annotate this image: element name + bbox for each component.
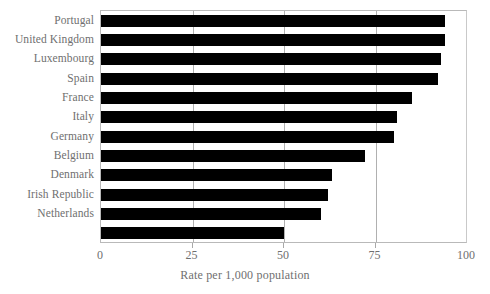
- bar-spain: [101, 73, 438, 85]
- tick-label-25: 25: [186, 248, 198, 263]
- tick-label-100: 100: [457, 248, 475, 263]
- bar-germany: [101, 131, 394, 143]
- chart-screenshot: PortugalUnited KingdomLuxembourgSpainFra…: [0, 0, 490, 294]
- bar-italy: [101, 111, 397, 123]
- bar-irish-republic: [101, 189, 328, 201]
- tick-label-50: 50: [277, 248, 289, 263]
- bar-row: [101, 227, 467, 239]
- bar-united-kingdom: [101, 34, 445, 46]
- bar-row: [101, 73, 467, 85]
- y-label-united-kingdom: United Kingdom: [15, 33, 94, 45]
- y-label-irish-republic: Irish Republic: [27, 188, 94, 200]
- bar-row: [101, 15, 467, 27]
- y-label-france: France: [62, 91, 94, 103]
- bar-row: [101, 189, 467, 201]
- tick-label-75: 75: [369, 248, 381, 263]
- bar-row: [101, 131, 467, 143]
- bar-row: [101, 92, 467, 104]
- y-axis-category-labels: PortugalUnited KingdomLuxembourgSpainFra…: [0, 10, 97, 243]
- y-label-luxembourg: Luxembourg: [34, 52, 94, 64]
- bar-france: [101, 92, 412, 104]
- bar-series: [101, 11, 466, 242]
- x-axis-title: Rate per 1,000 population: [0, 268, 490, 283]
- bar-denmark: [101, 169, 332, 181]
- y-label-germany: Germany: [51, 130, 95, 142]
- bar-row: [101, 53, 467, 65]
- bar-portugal: [101, 15, 445, 27]
- y-label-spain: Spain: [67, 72, 94, 84]
- bar-row: [101, 34, 467, 46]
- x-axis-ticks: 0255075100: [0, 243, 490, 265]
- y-label-portugal: Portugal: [54, 14, 94, 26]
- y-label-belgium: Belgium: [54, 149, 94, 161]
- bar-unlabeled: [101, 227, 284, 239]
- y-label-denmark: Denmark: [51, 168, 95, 180]
- bar-row: [101, 169, 467, 181]
- bar-belgium: [101, 150, 365, 162]
- bar-netherlands: [101, 208, 321, 220]
- bar-row: [101, 208, 467, 220]
- y-label-netherlands: Netherlands: [37, 207, 94, 219]
- tick-label-0: 0: [97, 248, 103, 263]
- bar-row: [101, 111, 467, 123]
- bar-row: [101, 150, 467, 162]
- bar-luxembourg: [101, 53, 441, 65]
- plot-area: [100, 10, 467, 243]
- y-label-italy: Italy: [72, 110, 94, 122]
